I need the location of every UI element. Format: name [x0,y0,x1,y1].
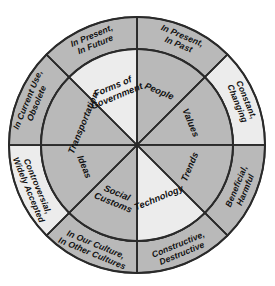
spokes-group [9,17,265,273]
wheel-canvas: In Present,In PastConstant,ChangingBenef… [0,0,275,286]
concept-wheel-diagram: In Present,In PastConstant,ChangingBenef… [0,0,275,286]
